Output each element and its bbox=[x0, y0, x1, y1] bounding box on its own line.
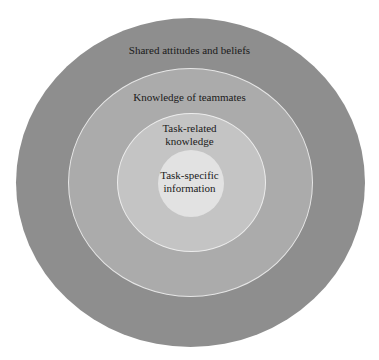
label-line: knowledge bbox=[0, 135, 379, 148]
label-line: information bbox=[0, 182, 379, 195]
label-shared-attitudes: Shared attitudes and beliefs bbox=[0, 44, 379, 57]
label-task-specific-information: Task-specific information bbox=[0, 169, 379, 194]
label-line: Task-specific bbox=[0, 169, 379, 182]
label-line: Task-related bbox=[0, 122, 379, 135]
label-text: Shared attitudes and beliefs bbox=[129, 44, 250, 56]
label-task-related-knowledge: Task-related knowledge bbox=[0, 122, 379, 147]
label-knowledge-of-teammates: Knowledge of teammates bbox=[0, 91, 379, 104]
label-text: Knowledge of teammates bbox=[133, 91, 245, 103]
